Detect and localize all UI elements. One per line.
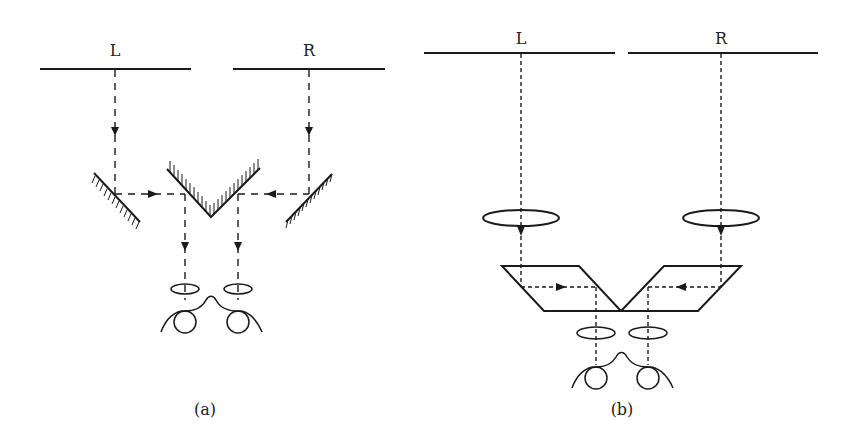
- arrow-down-icon: [305, 127, 313, 136]
- left-image-label-b: L: [516, 29, 527, 48]
- stereoscope-diagram: L R: [0, 0, 850, 440]
- right-eye-icon: [637, 367, 659, 389]
- right-image-label-b: R: [715, 29, 728, 48]
- arrow-down-icon: [234, 242, 242, 251]
- arrow-down-icon: [517, 226, 525, 236]
- arrow-left-icon: [676, 283, 686, 291]
- caption-a: (a): [194, 400, 216, 419]
- left-mirror-a: [92, 173, 140, 229]
- left-eye-icon: [585, 367, 607, 389]
- panel-b: L R (b): [424, 29, 818, 419]
- brow-nose-outline: [161, 296, 262, 332]
- viewer-face-a: [161, 296, 262, 333]
- arrow-right-icon: [556, 283, 566, 291]
- left-image-label-a: L: [110, 41, 121, 60]
- arrow-down-icon: [717, 226, 725, 236]
- center-v-mirror-a: [167, 159, 260, 217]
- arrow-right-icon: [148, 190, 158, 198]
- arrow-down-icon: [111, 127, 119, 136]
- panel-a: L R: [40, 41, 385, 419]
- right-image-label-a: R: [303, 41, 316, 60]
- left-eye-icon: [174, 311, 196, 333]
- viewer-face-b: [572, 353, 673, 390]
- right-mirror-a: [286, 174, 332, 228]
- arrow-down-icon: [181, 242, 189, 251]
- arrow-left-icon: [266, 190, 276, 198]
- right-eye-icon: [227, 311, 249, 333]
- caption-b: (b): [611, 400, 634, 419]
